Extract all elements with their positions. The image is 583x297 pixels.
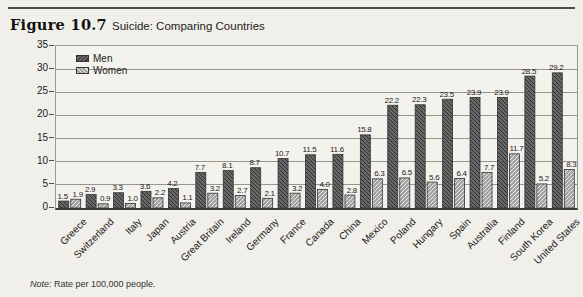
y-tick-label-30: 30 — [20, 62, 48, 73]
bar-women-china — [345, 195, 355, 208]
value-label-women-south-korea: 5.2 — [539, 174, 550, 183]
bar-women-finland — [509, 154, 519, 208]
y-tick-label-5: 5 — [20, 178, 48, 189]
value-label-women-austria: 1.1 — [182, 193, 193, 202]
value-label-women-australia: 7.7 — [484, 163, 495, 172]
bar-men-australia — [470, 97, 480, 208]
value-label-men-australia: 23.9 — [467, 88, 482, 97]
value-label-women-finland: 11.7 — [510, 144, 525, 153]
y-tick-label-20: 20 — [20, 108, 48, 119]
value-label-men-canada: 11.5 — [303, 145, 318, 154]
value-label-men-mexico: 15.8 — [357, 125, 372, 134]
women-swatch-icon — [76, 67, 89, 74]
value-label-women-hungary: 5.6 — [429, 173, 440, 182]
bar-women-japan — [153, 198, 163, 208]
bar-men-ireland — [223, 171, 233, 208]
men-swatch-icon — [76, 55, 89, 62]
y-tick-mark — [49, 114, 54, 115]
value-label-men-united-states: 29.2 — [549, 63, 564, 72]
plot-area: 1.51.92.90.93.31.03.62.24.21.17.73.28.12… — [55, 45, 578, 210]
legend-item-men: Men — [76, 52, 127, 64]
bar-men-italy — [114, 193, 124, 208]
y-tick-mark — [49, 207, 54, 208]
bar-men-switzerland — [86, 195, 96, 208]
y-tick-label-0: 0 — [20, 201, 48, 212]
y-tick-label-15: 15 — [20, 132, 48, 143]
value-label-men-italy: 3.3 — [112, 183, 123, 192]
value-label-men-japan: 3.6 — [140, 182, 151, 191]
value-label-men-finland: 23.9 — [494, 88, 509, 97]
bar-women-france — [290, 193, 300, 208]
top-rule — [8, 7, 575, 9]
value-label-men-poland: 22.2 — [385, 96, 400, 105]
bar-men-japan — [141, 191, 151, 208]
bar-men-spain — [443, 99, 453, 208]
bar-women-poland — [400, 178, 410, 208]
figure-number: Figure 10.7 — [10, 16, 107, 33]
value-label-men-germany: 8.7 — [250, 158, 261, 167]
value-label-women-canada: 4.0 — [319, 180, 330, 189]
bar-men-great-britain — [196, 172, 206, 208]
bar-men-finland — [497, 97, 507, 208]
bar-women-great-britain — [208, 193, 218, 208]
value-label-women-great-britain: 3.2 — [210, 184, 221, 193]
bar-men-china — [333, 154, 343, 208]
value-label-women-italy: 1.0 — [127, 194, 138, 203]
value-label-men-great-britain: 7.7 — [195, 163, 206, 172]
footnote-label: Note: — [30, 279, 52, 289]
value-label-women-united-states: 8.3 — [566, 160, 577, 169]
bar-women-united-states — [564, 170, 574, 208]
bar-men-united-states — [552, 73, 562, 208]
y-tick-mark — [49, 91, 54, 92]
legend-item-women: Women — [76, 64, 127, 76]
footnote: Note: Rate per 100,000 people. — [30, 279, 156, 289]
value-label-men-switzerland: 2.9 — [85, 185, 96, 194]
value-label-men-france: 10.7 — [275, 149, 290, 158]
legend-label-men: Men — [93, 53, 112, 64]
bar-women-australia — [482, 172, 492, 208]
bar-men-hungary — [415, 105, 425, 208]
bar-women-ireland — [235, 196, 245, 208]
value-label-men-china: 11.6 — [330, 145, 345, 154]
value-label-women-switzerland: 0.9 — [100, 194, 111, 203]
value-label-men-austria: 4.2 — [167, 179, 178, 188]
y-tick-mark — [49, 45, 54, 46]
y-tick-label-35: 35 — [20, 39, 48, 50]
value-label-men-spain: 23.5 — [439, 90, 454, 99]
bar-women-germany — [263, 198, 273, 208]
y-tick-label-10: 10 — [20, 155, 48, 166]
bar-women-switzerland — [98, 204, 108, 208]
footnote-text: Rate per 100,000 people. — [54, 279, 156, 289]
value-label-men-greece: 1.5 — [58, 192, 69, 201]
value-label-women-japan: 2.2 — [155, 188, 166, 197]
y-tick-mark — [49, 183, 54, 184]
value-label-men-hungary: 22.3 — [412, 95, 427, 104]
y-tick-mark — [49, 137, 54, 138]
value-label-women-mexico: 6.3 — [374, 169, 385, 178]
bar-women-hungary — [427, 182, 437, 208]
chart-svg: 1.51.92.90.93.31.03.62.24.21.17.73.28.12… — [56, 46, 577, 208]
x-tick-label-united-states: United States — [482, 216, 582, 297]
value-label-women-france: 3.2 — [292, 184, 303, 193]
y-tick-label-25: 25 — [20, 85, 48, 96]
bar-men-germany — [251, 168, 261, 208]
bar-men-austria — [168, 189, 178, 208]
value-label-women-greece: 1.9 — [73, 190, 84, 199]
bar-women-spain — [455, 178, 465, 208]
bar-women-canada — [318, 189, 328, 208]
bar-men-mexico — [360, 135, 370, 208]
y-tick-mark — [49, 68, 54, 69]
figure-title: Figure 10.7Suicide: Comparing Countries — [10, 16, 265, 34]
value-label-women-germany: 2.1 — [265, 189, 276, 198]
value-label-men-south-korea: 28.5 — [522, 67, 537, 76]
bar-men-canada — [306, 155, 316, 208]
bar-women-south-korea — [537, 184, 547, 208]
value-label-men-ireland: 8.1 — [222, 161, 233, 170]
figure-caption: Suicide: Comparing Countries — [112, 20, 265, 32]
bar-men-poland — [388, 105, 398, 208]
bar-men-france — [278, 158, 288, 208]
bar-men-south-korea — [525, 76, 535, 208]
bar-men-greece — [59, 201, 69, 208]
legend-label-women: Women — [93, 65, 127, 76]
value-label-women-spain: 6.4 — [456, 169, 467, 178]
